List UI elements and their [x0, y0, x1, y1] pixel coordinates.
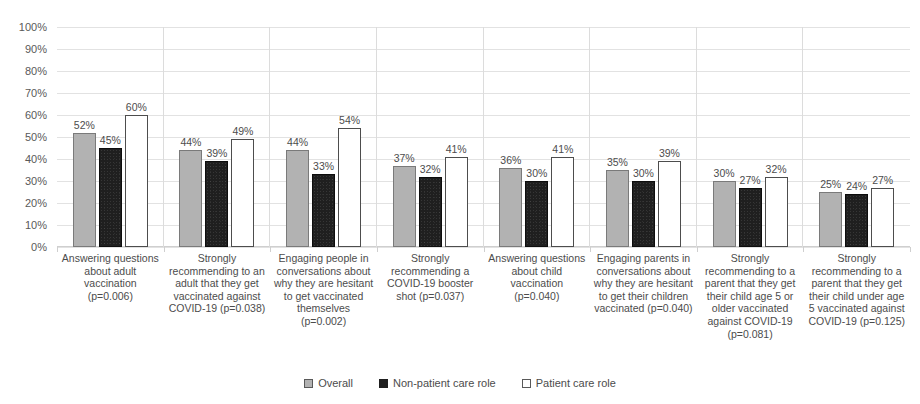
bar-patient[interactable]	[231, 139, 254, 247]
bar-column: 27%	[739, 27, 762, 247]
bar-group-bars: 44%33%54%	[270, 27, 377, 247]
bar-column: 24%	[845, 27, 868, 247]
bar-chart: 100%90%80%70%60%50%40%30%20%10%0% 52%45%…	[0, 0, 920, 404]
bar-nonpatient[interactable]	[419, 177, 442, 247]
y-axis-tick-label: 50%	[0, 132, 47, 143]
bar-overall[interactable]	[499, 168, 522, 247]
bar-column: 37%	[393, 27, 416, 247]
x-axis-category-label: Strongly recommending to a parent that t…	[803, 252, 910, 340]
y-axis-tick-label: 100%	[0, 22, 47, 33]
bar-group-bars: 52%45%60%	[57, 27, 164, 247]
bar-group-bars: 30%27%32%	[697, 27, 804, 247]
legend-item[interactable]: Patient care role	[522, 377, 616, 389]
bar-nonpatient[interactable]	[845, 194, 868, 247]
y-axis-tick-label: 0%	[0, 242, 47, 253]
legend-item[interactable]: Non-patient care role	[379, 377, 496, 389]
patient-swatch-icon	[522, 379, 531, 388]
bar-column: 54%	[338, 27, 361, 247]
bar-patient[interactable]	[551, 157, 574, 247]
bar-column: 33%	[312, 27, 335, 247]
bar-column: 44%	[286, 27, 309, 247]
bar-group-bars: 25%24%27%	[803, 27, 910, 247]
y-axis-tick-label: 10%	[0, 220, 47, 231]
bar-value-label: 30%	[714, 168, 735, 179]
bar-column: 30%	[713, 27, 736, 247]
x-axis-category-label: Answering questions about adult vaccinat…	[57, 252, 164, 340]
bar-groups: 52%45%60%44%39%49%44%33%54%37%32%41%36%3…	[57, 27, 910, 247]
bar-group-bars: 35%30%39%	[590, 27, 697, 247]
chart-legend: OverallNon-patient care rolePatient care…	[0, 377, 920, 389]
bar-value-label: 44%	[287, 137, 308, 148]
bar-overall[interactable]	[393, 166, 416, 247]
bar-value-label: 27%	[740, 175, 761, 186]
x-axis-category-label: Strongly recommending to an adult that t…	[164, 252, 271, 340]
legend-item[interactable]: Overall	[304, 377, 353, 389]
legend-item-label: Non-patient care role	[393, 377, 496, 389]
bar-column: 30%	[632, 27, 655, 247]
plot-area: 52%45%60%44%39%49%44%33%54%37%32%41%36%3…	[57, 27, 910, 247]
y-axis-tick-label: 30%	[0, 176, 47, 187]
bar-overall[interactable]	[713, 181, 736, 247]
bar-nonpatient[interactable]	[205, 161, 228, 247]
bar-patient[interactable]	[658, 161, 681, 247]
bar-value-label: 54%	[339, 115, 360, 126]
bar-value-label: 33%	[313, 161, 334, 172]
bar-value-label: 39%	[206, 148, 227, 159]
bar-overall[interactable]	[179, 150, 202, 247]
overall-swatch-icon	[304, 379, 313, 388]
bar-nonpatient[interactable]	[312, 174, 335, 247]
x-axis-tick	[910, 247, 911, 252]
bar-nonpatient[interactable]	[525, 181, 548, 247]
bar-column: 45%	[99, 27, 122, 247]
bar-column: 39%	[205, 27, 228, 247]
bar-column: 41%	[551, 27, 574, 247]
bar-value-label: 49%	[232, 126, 253, 137]
bar-value-label: 39%	[659, 148, 680, 159]
bar-value-label: 32%	[766, 164, 787, 175]
legend-item-label: Overall	[318, 377, 353, 389]
y-axis-tick-label: 60%	[0, 110, 47, 121]
bar-overall[interactable]	[286, 150, 309, 247]
bar-column: 41%	[445, 27, 468, 247]
bar-column: 27%	[871, 27, 894, 247]
y-axis-tick-label: 90%	[0, 44, 47, 55]
bar-patient[interactable]	[125, 115, 148, 247]
legend-item-label: Patient care role	[536, 377, 616, 389]
y-axis-tick-label: 80%	[0, 66, 47, 77]
bar-column: 25%	[819, 27, 842, 247]
bar-group-bars: 36%30%41%	[484, 27, 591, 247]
bar-value-label: 30%	[526, 168, 547, 179]
x-axis-category-label: Strongly recommending to a parent that t…	[697, 252, 804, 340]
bar-group: 35%30%39%	[590, 27, 697, 247]
bar-group: 44%39%49%	[164, 27, 271, 247]
bar-patient[interactable]	[445, 157, 468, 247]
bar-column: 30%	[525, 27, 548, 247]
bar-overall[interactable]	[73, 133, 96, 247]
bar-overall[interactable]	[819, 192, 842, 247]
bar-patient[interactable]	[871, 188, 894, 247]
bar-patient[interactable]	[338, 128, 361, 247]
bar-value-label: 60%	[126, 102, 147, 113]
nonpatient-swatch-icon	[379, 379, 388, 388]
bar-value-label: 37%	[394, 153, 415, 164]
bar-value-label: 44%	[180, 137, 201, 148]
bar-column: 52%	[73, 27, 96, 247]
bar-value-label: 35%	[607, 157, 628, 168]
bar-group: 44%33%54%	[270, 27, 377, 247]
y-axis-tick-label: 70%	[0, 88, 47, 99]
x-axis-category-label: Engaging people in conversations about w…	[270, 252, 377, 340]
bar-nonpatient[interactable]	[632, 181, 655, 247]
bar-value-label: 41%	[552, 144, 573, 155]
bar-nonpatient[interactable]	[99, 148, 122, 247]
bar-patient[interactable]	[765, 177, 788, 247]
bar-column: 35%	[606, 27, 629, 247]
x-axis-category-label: Strongly recommending a COVID-19 booster…	[377, 252, 484, 340]
bar-column: 32%	[419, 27, 442, 247]
bar-nonpatient[interactable]	[739, 188, 762, 247]
bar-column: 60%	[125, 27, 148, 247]
bar-overall[interactable]	[606, 170, 629, 247]
bar-value-label: 36%	[500, 155, 521, 166]
bar-value-label: 24%	[846, 181, 867, 192]
bar-group: 37%32%41%	[377, 27, 484, 247]
bar-group-bars: 44%39%49%	[164, 27, 271, 247]
